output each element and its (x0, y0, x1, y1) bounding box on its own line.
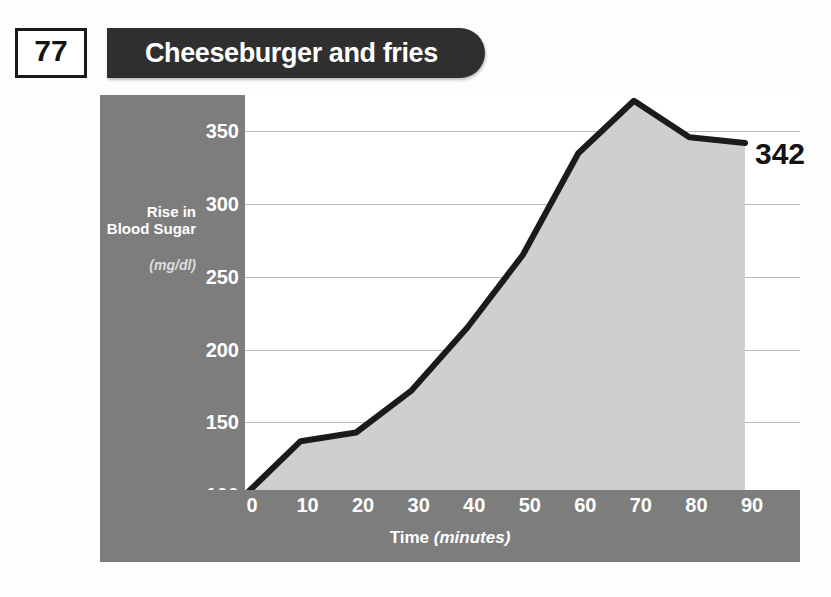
x-tick-label: 10 (296, 494, 318, 517)
x-tick-label: 90 (741, 494, 763, 517)
end-value-annotation: 342 (755, 137, 805, 171)
plot-area (245, 95, 800, 495)
y-tick-label: 300 (169, 193, 239, 216)
title-banner: Cheeseburger and fries 77 (15, 28, 485, 78)
x-tick-label: 30 (408, 494, 430, 517)
x-axis-panel: 0102030405060708090 Time (minutes) (100, 490, 800, 562)
y-tick-label: 350 (169, 120, 239, 143)
x-axis-title: Time (minutes) (100, 528, 800, 548)
y-tick-label: 150 (169, 411, 239, 434)
x-tick-label: 40 (463, 494, 485, 517)
recipe-number: 77 (15, 28, 87, 72)
x-tick-label: 20 (352, 494, 374, 517)
y-tick-label: 200 (169, 338, 239, 361)
x-axis-units: (minutes) (434, 528, 511, 547)
x-axis-title-text: Time (390, 528, 434, 547)
blood-sugar-curve (245, 95, 800, 495)
page-title: Cheeseburger and fries (145, 28, 438, 78)
x-tick-label: 60 (574, 494, 596, 517)
x-tick-label: 70 (630, 494, 652, 517)
x-tick-label: 50 (519, 494, 541, 517)
chart-container: Rise in Blood Sugar (mg/dl) 100150200250… (100, 95, 800, 562)
y-axis-panel: Rise in Blood Sugar (mg/dl) 100150200250… (100, 95, 245, 515)
x-tick-label: 80 (685, 494, 707, 517)
x-tick-label: 0 (246, 494, 257, 517)
y-tick-label: 250 (169, 265, 239, 288)
